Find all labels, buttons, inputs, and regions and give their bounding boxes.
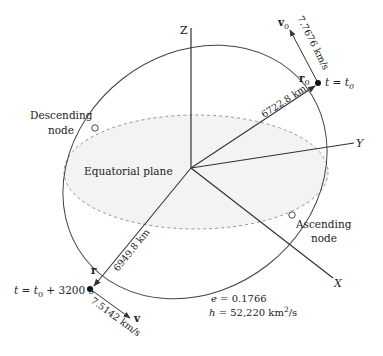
angular-momentum-label: h = 52,220 km2/s: [209, 305, 297, 318]
x-axis-label: X: [333, 277, 343, 290]
initial-position-dot: [315, 80, 321, 86]
ascending-node-label-2: node: [311, 232, 337, 244]
final-time-label: t = t0 + 3200 s: [14, 284, 94, 299]
z-axis-label: Z: [180, 24, 188, 37]
eccentricity-label: e = 0.1766: [211, 293, 267, 304]
v-symbol: v: [133, 312, 141, 324]
v0-symbol: v0: [277, 16, 289, 31]
r-symbol: r: [91, 264, 97, 276]
v0-speed-label: 7.7676 km/s: [295, 14, 332, 72]
equatorial-plane-label: Equatorial plane: [84, 165, 173, 177]
descending-node-label-1: Descending: [30, 109, 93, 121]
descending-node-marker: [92, 125, 98, 131]
r0-distance-label: 6722.8 km: [259, 83, 308, 120]
ascending-node-label-1: Ascending: [295, 218, 352, 230]
y-axis-label: Y: [356, 137, 365, 150]
r-distance-label: 6949.8 km: [111, 227, 152, 274]
ascending-node-marker: [289, 212, 295, 218]
descending-node-label-2: node: [48, 124, 74, 136]
initial-time-label: t = t0: [325, 76, 354, 91]
orbit-diagram: Z Y X Equatorial plane Descending node A…: [0, 0, 383, 356]
